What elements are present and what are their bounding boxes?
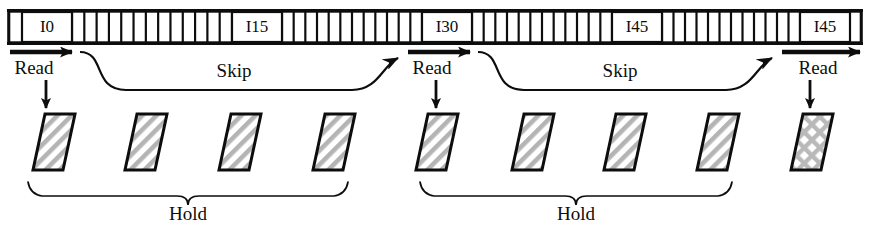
skip-label-2: Skip	[603, 60, 638, 81]
frame-8	[697, 114, 739, 170]
frame-6	[512, 114, 554, 170]
tape-cell-label-3: I45	[626, 17, 649, 36]
tape-timing-diagram: I0I15I30I45I45 ReadReadRead SkipSkip Hol…	[0, 0, 870, 239]
hold-brace-1	[28, 182, 348, 205]
hold-label-1: Hold	[169, 203, 208, 224]
read-label-2: Read	[412, 57, 452, 78]
frame-1	[33, 114, 75, 170]
skip-label-1: Skip	[217, 60, 252, 81]
hold-brace-2	[420, 182, 732, 205]
diagram-canvas: I0I15I30I45I45 ReadReadRead SkipSkip Hol…	[0, 0, 870, 239]
tape-cell-label-1: I15	[246, 17, 269, 36]
tape-cell-label-2: I30	[436, 17, 459, 36]
frame-7	[604, 114, 646, 170]
frame-4	[313, 114, 355, 170]
frame-3	[219, 114, 261, 170]
hold-label-2: Hold	[557, 203, 596, 224]
braces-group: HoldHold	[28, 182, 732, 224]
tape-cell-label-4: I45	[814, 17, 837, 36]
frames-group	[33, 114, 833, 170]
frame-2	[125, 114, 167, 170]
frame-9	[791, 114, 833, 170]
tape-group: I0I15I30I45I45	[7, 9, 863, 45]
read-arrows-group: ReadReadRead	[10, 52, 860, 108]
read-label-3: Read	[798, 57, 838, 78]
tape-cell-label-0: I0	[40, 17, 54, 36]
read-label-1: Read	[14, 57, 54, 78]
frame-5	[416, 114, 458, 170]
